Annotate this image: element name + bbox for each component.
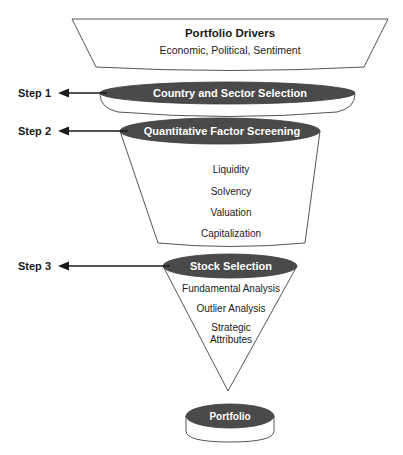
step-2-label: Step 2 [18,125,51,137]
step-3-item-attributes: Attributes [210,334,252,345]
step-2-arrow-icon [58,127,69,136]
step-1-arrow-icon [58,89,69,98]
step-3-arrow-icon [58,262,69,271]
funnel-svg: Portfolio Drivers Economic, Political, S… [0,0,403,455]
step-2-item-valuation: Valuation [211,207,252,218]
step-2-item-liquidity: Liquidity [213,164,250,175]
step-2-item-capitalization: Capitalization [201,228,261,239]
funnel-diagram: Portfolio Drivers Economic, Political, S… [0,0,403,455]
step-3-group: Stock Selection Fundamental Analysis Out… [18,254,297,391]
step-1-group: Country and Sector Selection Step 1 [18,82,355,117]
step-1-band-label: Country and Sector Selection [153,87,307,99]
step-3-item-fundamental-analysis: Fundamental Analysis [182,283,280,294]
portfolio-drivers-subheading: Economic, Political, Sentiment [159,44,300,56]
step-3-band-label: Stock Selection [190,260,272,272]
step-2-item-solvency: Solvency [211,186,252,197]
step-1-label: Step 1 [18,87,51,99]
step-3-label: Step 3 [18,260,51,272]
portfolio-drivers-section: Portfolio Drivers Economic, Political, S… [72,19,388,71]
portfolio-output-label: Portfolio [209,411,250,422]
portfolio-output-group: Portfolio [186,404,274,442]
step-2-band-label: Quantitative Factor Screening [144,125,300,137]
portfolio-drivers-heading: Portfolio Drivers [185,27,275,39]
step-3-item-strategic: Strategic [211,322,250,333]
step-3-item-outlier-analysis: Outlier Analysis [197,303,266,314]
step-2-group: Quantitative Factor Screening Liquidity … [18,118,320,247]
